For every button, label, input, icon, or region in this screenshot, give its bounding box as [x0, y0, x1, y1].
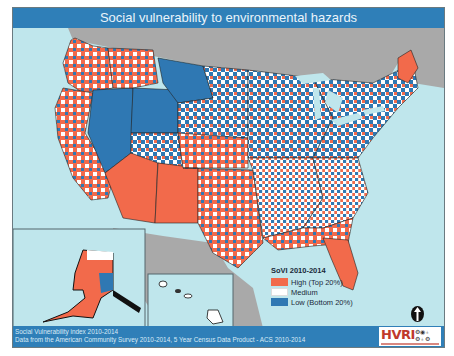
footer-line-2: Data from the American Community Survey … — [15, 336, 305, 344]
map-title: Social vulnerability to environmental ha… — [13, 8, 444, 28]
north-arrow-icon — [411, 305, 424, 322]
map-frame: Social vulnerability to environmental ha… — [12, 7, 445, 348]
legend-item-medium: Medium — [271, 287, 391, 297]
hvri-logo: HVRI ⚙◉♁ ⚙♁⚙ — [379, 327, 441, 346]
legend-swatch-medium — [271, 288, 288, 296]
hvri-logo-text: HVRI — [381, 328, 415, 342]
footer-line-1: Social Vulnerability index 2010-2014 — [15, 328, 118, 336]
footer: Social Vulnerability index 2010-2014 Dat… — [13, 326, 444, 347]
legend-title: SoVI 2010-2014 — [271, 266, 391, 275]
legend-item-low: Low (Bottom 20%) — [271, 297, 391, 307]
legend: SoVI 2010-2014 High (Top 20%) Medium Low… — [271, 266, 391, 307]
legend-label-high: High (Top 20%) — [291, 278, 343, 287]
hawaii-inset — [148, 274, 233, 328]
legend-swatch-low — [271, 298, 288, 306]
legend-label-medium: Medium — [291, 288, 318, 297]
legend-item-high: High (Top 20%) — [271, 277, 391, 287]
legend-swatch-high — [271, 278, 288, 286]
alaska-inset — [13, 229, 145, 328]
hvri-logo-icons: ⚙◉♁ ⚙♁⚙ — [415, 329, 441, 343]
legend-label-low: Low (Bottom 20%) — [291, 298, 353, 307]
hvri-logo-underline — [381, 343, 439, 345]
